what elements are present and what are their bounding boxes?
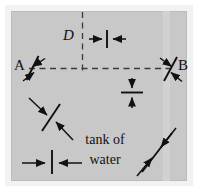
point-b-label: B xyxy=(178,58,188,73)
marker-bottom-left xyxy=(22,150,82,174)
marker-top-center xyxy=(89,30,126,48)
tank-caption-line-1: tank of xyxy=(85,132,124,147)
physics-figure: A B D tank of water xyxy=(0,0,198,191)
marker-center-right xyxy=(121,78,143,108)
marker-lower-right xyxy=(137,128,176,176)
point-a-label: A xyxy=(14,58,25,73)
marker-lower-left xyxy=(29,98,73,140)
tank-caption-line-2: water xyxy=(89,152,120,167)
tank-caption: tank of water xyxy=(74,130,136,171)
dimension-d-label: D xyxy=(63,28,74,43)
